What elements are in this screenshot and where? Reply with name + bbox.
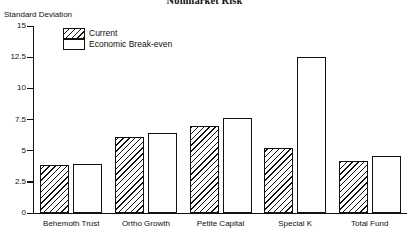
y-axis-tick — [27, 213, 34, 214]
y-axis-tick-label: 0 — [22, 209, 28, 217]
y-axis-tick-label: 2.5 — [15, 178, 28, 186]
legend-swatch-economic-break-even — [63, 39, 85, 50]
bar — [148, 133, 177, 213]
bar — [115, 137, 144, 213]
y-axis-tick-label: 5 — [22, 147, 28, 155]
y-axis-tick — [27, 119, 34, 120]
x-axis-line — [33, 213, 407, 214]
bar — [264, 148, 293, 213]
bar — [40, 165, 69, 213]
bar — [223, 118, 252, 213]
y-axis-tick — [27, 57, 34, 58]
x-axis-category-label: Special K — [258, 219, 333, 228]
bar — [190, 126, 219, 213]
bar — [372, 156, 401, 213]
plot-area: 02.557.51012.515 Behemoth TrustOrtho Gro… — [0, 0, 409, 240]
x-axis-category-label: Total Fund — [332, 219, 407, 228]
y-axis-tick-label: 15 — [17, 22, 28, 30]
legend-label-economic-break-even: Economic Break-even — [89, 39, 172, 50]
y-axis-tick — [27, 88, 34, 89]
x-axis-category-label: Ortho Growth — [109, 219, 184, 228]
y-axis-tick-label: 12.5 — [10, 53, 28, 61]
x-axis-category-label: Petite Capital — [183, 219, 258, 228]
bar — [339, 161, 368, 213]
x-axis-category-label: Behemoth Trust — [34, 219, 109, 228]
y-axis-tick — [27, 150, 34, 151]
legend-swatch-current — [63, 28, 85, 39]
y-axis-tick-label: 7.5 — [15, 116, 28, 124]
y-axis-tick-label: 10 — [17, 84, 28, 92]
legend-label-current: Current — [89, 28, 117, 39]
bar — [297, 57, 326, 213]
bar — [73, 164, 102, 213]
y-axis-tick — [27, 181, 34, 182]
y-axis-tick — [27, 26, 34, 27]
